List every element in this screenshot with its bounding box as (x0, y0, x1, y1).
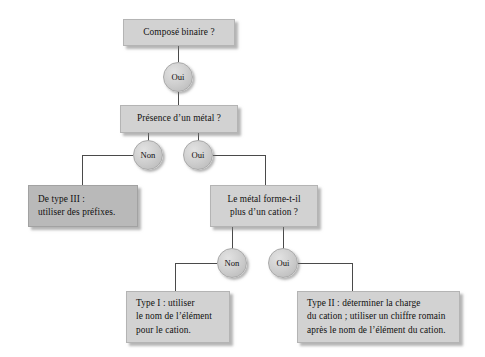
node-result-type-i: Type I : utiliser le nom de l’élément po… (126, 291, 230, 343)
edge-oui-to-cation (213, 155, 265, 185)
node-compose-binaire: Composé binaire ? (123, 19, 235, 46)
node-result-type-iii: De type III : utiliser des préfixes. (28, 185, 138, 227)
node-result-type-iii-line-2: utiliser des préfixes. (38, 206, 128, 219)
edge-label-non-metal: Non (133, 140, 163, 170)
node-metal-forme-cation-line-2: plus d’un cation ? (230, 206, 298, 219)
flowchart-diagram: Composé binaire ? Oui Présence d’un méta… (0, 0, 485, 357)
node-metal-forme-cation: Le métal forme-t-il plus d’un cation ? (210, 185, 318, 227)
edge-label-oui-cation: Oui (268, 248, 298, 278)
node-presence-metal-line-1: Présence d’un métal ? (137, 112, 221, 125)
node-result-type-i-line-1: Type I : utiliser (136, 297, 220, 310)
node-result-type-i-line-2: le nom de l’élément (136, 310, 220, 323)
edge-label-non-metal-text: Non (141, 150, 156, 160)
node-result-type-ii-line-1: Type II : déterminer la charge (307, 297, 450, 310)
node-result-type-iii-line-1: De type III : (38, 193, 128, 206)
node-result-type-ii-line-2: du cation ; utiliser un chiffre romain (307, 310, 450, 323)
edge-label-oui-top-text: Oui (172, 72, 185, 82)
edge-label-non-cation: Non (217, 248, 247, 278)
edge-label-non-cation-text: Non (225, 258, 240, 268)
node-result-type-i-line-3: pour le cation. (136, 324, 220, 337)
node-metal-forme-cation-line-1: Le métal forme-t-il (227, 193, 300, 206)
edge-oui-to-type2 (298, 263, 352, 291)
node-result-type-ii-line-3: après le nom de l’élément du cation. (307, 324, 450, 337)
edge-label-oui-cation-text: Oui (277, 258, 290, 268)
node-compose-binaire-line-1: Composé binaire ? (143, 26, 214, 39)
edge-label-oui-top: Oui (163, 62, 193, 92)
node-result-type-ii: Type II : déterminer la charge du cation… (297, 291, 460, 343)
node-presence-metal: Présence d’un métal ? (120, 105, 238, 133)
edge-label-oui-metal-text: Oui (192, 150, 205, 160)
edge-non-to-type1 (175, 263, 217, 291)
edge-label-oui-metal: Oui (183, 140, 213, 170)
edge-non-to-type3 (82, 155, 133, 185)
